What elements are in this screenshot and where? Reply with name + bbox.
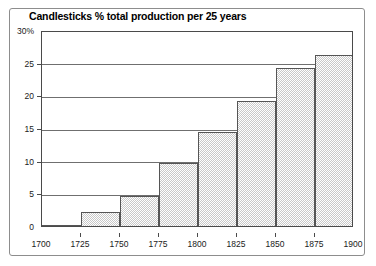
x-tick-mark: [80, 233, 81, 237]
x-tick-mark: [197, 233, 198, 237]
gridline: [42, 64, 352, 65]
x-tick-mark: [158, 233, 159, 237]
y-tick-label: 30%: [17, 26, 34, 36]
y-tick-label: 25: [25, 59, 34, 69]
x-tick-label: 1875: [305, 239, 324, 249]
bar-top-edge: [237, 101, 276, 102]
bar-top-edge: [42, 225, 81, 226]
x-tick-mark: [314, 233, 315, 237]
x-tick-label: 1800: [188, 239, 207, 249]
chart-title: Candlesticks % total production per 25 y…: [29, 10, 246, 22]
bar-top-edge: [159, 163, 198, 164]
bar: [81, 212, 120, 226]
x-tick-label: 1700: [32, 239, 51, 249]
y-tick-label: 20: [25, 91, 34, 101]
y-tick-label: 5: [29, 189, 34, 199]
x-tick-label: 1725: [71, 239, 90, 249]
bar: [315, 55, 353, 226]
x-tick-mark: [119, 233, 120, 237]
bar-top-edge: [120, 196, 159, 197]
y-axis: 051015202530%: [0, 0, 41, 240]
x-tick-label: 1750: [110, 239, 129, 249]
x-tick-mark: [236, 233, 237, 237]
x-tick-label: 1775: [149, 239, 168, 249]
x-tick-mark: [275, 233, 276, 237]
bar: [120, 196, 159, 226]
x-tick-label: 1850: [266, 239, 285, 249]
bar: [159, 163, 198, 226]
bar: [42, 225, 81, 226]
bar-top-edge: [81, 212, 120, 213]
bar-top-edge: [276, 68, 315, 69]
x-axis: 170017251750177518001825185018751900: [0, 233, 376, 253]
bar: [198, 132, 237, 226]
bar-top-edge: [198, 132, 237, 133]
bar: [276, 68, 315, 226]
y-tick-label: 10: [25, 157, 34, 167]
x-tick-label: 1825: [227, 239, 246, 249]
x-tick-label: 1900: [344, 239, 363, 249]
bar: [237, 101, 276, 226]
plot-area: [41, 31, 353, 227]
y-tick-label: 0: [29, 222, 34, 232]
y-tick-label: 15: [25, 124, 34, 134]
bar-top-edge: [315, 55, 353, 56]
